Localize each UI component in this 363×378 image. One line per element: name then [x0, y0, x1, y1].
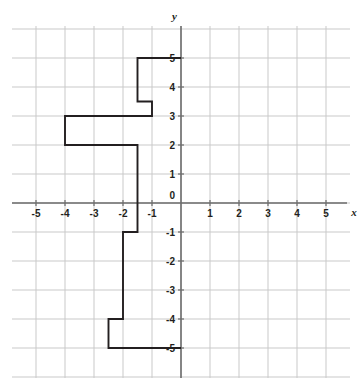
x-tick-label: 1 — [207, 208, 213, 219]
x-axis-name: x — [350, 206, 357, 218]
coordinate-plane-svg: -5-4-3-2-112345 54321-1-2-3-4-5 0xy — [0, 0, 363, 378]
x-tick-label: -1 — [148, 208, 157, 219]
x-tick-label: 3 — [265, 208, 271, 219]
y-tick-label: -1 — [166, 227, 175, 238]
y-tick-label: -2 — [166, 256, 175, 267]
origin-label: 0 — [169, 190, 175, 201]
y-tick-label: 2 — [169, 140, 175, 151]
x-tick-label: -4 — [61, 208, 70, 219]
x-tick-label: 4 — [294, 208, 300, 219]
coordinate-plane-figure: · · · -5-4-3-2-112345 54321-1-2-3-4-5 0x… — [0, 0, 363, 378]
y-tick-label: 3 — [169, 111, 175, 122]
y-axis-name: y — [170, 10, 177, 22]
x-tick-label: -5 — [32, 208, 41, 219]
y-tick-label: 1 — [169, 169, 175, 180]
x-tick-label: -3 — [90, 208, 99, 219]
x-tick-label: 5 — [323, 208, 329, 219]
y-tick-label: -4 — [166, 314, 175, 325]
x-tick-label: 2 — [236, 208, 242, 219]
y-tick-label: 4 — [169, 82, 175, 93]
x-tick-label: -2 — [119, 208, 128, 219]
y-tick-label: -3 — [166, 285, 175, 296]
